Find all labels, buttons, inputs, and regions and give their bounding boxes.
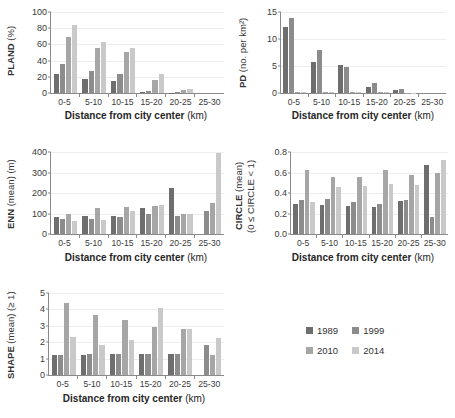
bar-2014 [130, 211, 135, 234]
bar-1989 [82, 216, 87, 234]
bar-1999 [117, 74, 122, 93]
bar-2010 [409, 175, 414, 234]
bars [338, 12, 361, 93]
bars [293, 152, 314, 234]
bars [421, 12, 444, 93]
panel-circle: CIRCLE (mean) (0 ≤ CIRCLE < 1) 0.00.20.4… [232, 140, 455, 285]
x-tick-label: 5-10 [79, 97, 108, 107]
x-tick-label: 20-25 [391, 97, 419, 107]
shape-plot-area: 012345 [48, 293, 224, 376]
bar-1999 [175, 216, 180, 234]
bar-1989 [139, 354, 144, 375]
bar-2014 [384, 92, 389, 93]
x-tick-label: 5-10 [79, 238, 108, 248]
bar-2014 [310, 202, 315, 234]
bar-2014 [216, 153, 221, 234]
bar-2010 [152, 206, 157, 234]
x-tick-label: 5-10 [316, 238, 342, 248]
bar-2010 [210, 203, 215, 234]
bar-1989 [111, 216, 116, 234]
bar-group [107, 293, 136, 375]
bar-groups [49, 293, 224, 375]
bar-1999 [430, 217, 435, 234]
bar-group [109, 152, 138, 234]
bar-1999 [145, 354, 150, 375]
y-tick-label: 10 [267, 34, 281, 44]
bar-1989 [140, 92, 145, 93]
x-tick-label: 15-20 [369, 238, 395, 248]
bar-1999 [60, 219, 65, 234]
bar-1989 [54, 74, 59, 93]
bar-1989 [346, 206, 351, 234]
y-tick-label: 0.4 [274, 188, 291, 198]
bar-group [370, 152, 396, 234]
bar-2014 [441, 160, 446, 234]
x-tick-label: 5-10 [308, 97, 336, 107]
bar-2014 [70, 337, 75, 375]
bars [110, 293, 134, 375]
enn-x-tick-labels: 0-55-1010-1515-2020-2525-30 [50, 238, 224, 248]
bar-2014 [301, 92, 306, 93]
panel-pland: PLAND (%) 020406080100 0-55-1010-1515-20… [0, 0, 232, 140]
pland-x-tick-labels: 0-55-1010-1515-2020-2525-30 [50, 97, 224, 107]
bar-group [137, 293, 166, 375]
legend-label: 2014 [363, 345, 384, 356]
shape-y-axis-title-unit: (mean) (≥ 1) [5, 291, 16, 343]
bar-group [195, 293, 224, 375]
bar-2010 [323, 92, 328, 93]
enn-y-axis-title: ENN (mean) (m) [6, 148, 16, 240]
legend-item-1999: 1999 [352, 325, 384, 336]
pd-y-axis-title-unit: (no. per km²) [237, 18, 248, 72]
bar-2014 [356, 92, 361, 93]
bar-group [419, 12, 447, 93]
bar-group [364, 12, 392, 93]
panel-enn: ENN (mean) (m) 0100200300400 0-55-1010-1… [0, 140, 232, 285]
bars [139, 293, 163, 375]
bar-2010 [124, 52, 129, 93]
bars [320, 152, 341, 234]
circle-x-axis-title: Distance from city center (km) [258, 252, 455, 263]
circle-y-axis-title-unit: (mean) [233, 162, 244, 192]
bar-group [78, 293, 107, 375]
bars [54, 152, 78, 234]
bar-1989 [169, 188, 174, 234]
x-tick-label: 15-20 [136, 379, 165, 389]
bar-1999 [89, 219, 94, 234]
legend: 1989199920102014 [306, 325, 384, 356]
bars [372, 152, 393, 234]
bar-groups [281, 12, 446, 93]
bar-groups [51, 12, 224, 93]
bar-2014 [187, 89, 192, 93]
bar-2014 [336, 187, 341, 234]
x-tick-label: 0-5 [50, 238, 79, 248]
x-tick-label: 10-15 [108, 97, 137, 107]
bar-1989 [293, 204, 298, 234]
bar-1989 [311, 62, 316, 93]
x-tick-label: 0-5 [48, 379, 77, 389]
bar-1989 [168, 354, 173, 375]
bar-2014 [187, 329, 192, 375]
bar-2010 [66, 214, 71, 234]
legend-swatch-icon [352, 327, 359, 334]
bar-1999 [204, 211, 209, 234]
pd-plot-area: 051015 [280, 12, 446, 94]
bars [283, 12, 306, 93]
bar-group [343, 152, 369, 234]
circle-y-axis-title: CIRCLE (mean) [234, 146, 244, 246]
bar-group [391, 12, 419, 93]
enn-y-axis-title-unit: (mean) (m) [5, 159, 16, 206]
bars [311, 12, 334, 93]
pland-plot-area: 020406080100 [50, 12, 224, 94]
y-tick-label: 3 [40, 321, 49, 331]
y-tick-label: 400 [32, 147, 51, 157]
y-tick-label: 100 [32, 209, 51, 219]
bar-group [166, 293, 195, 375]
enn-x-axis-title: Distance from city center (km) [30, 252, 242, 263]
bar-1999 [146, 214, 151, 234]
bar-2010 [152, 80, 157, 93]
bar-1999 [317, 50, 322, 93]
bar-group [281, 12, 309, 93]
bar-1999 [146, 91, 151, 93]
y-tick-label: 4 [40, 304, 49, 314]
bar-1999 [117, 217, 122, 234]
